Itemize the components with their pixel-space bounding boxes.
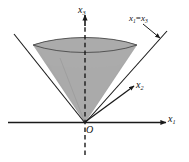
- annotation-leader-arrow: [143, 24, 160, 38]
- origin-label: O: [86, 125, 93, 135]
- figure-canvas: x3 x1 x2 x1=x3 O: [0, 0, 189, 162]
- axis-label-x2: x2: [136, 80, 144, 90]
- axis-label-x1: x1: [168, 114, 176, 124]
- axis-label-x3: x3: [78, 5, 86, 15]
- cone-diagram-svg: [0, 0, 189, 162]
- annotation-label-x1-equals-x3: x1=x3: [129, 14, 148, 23]
